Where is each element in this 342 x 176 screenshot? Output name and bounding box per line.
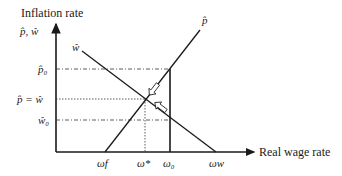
x-tick-ww: ωw xyxy=(209,158,224,169)
x-tick-wf: ωf xyxy=(97,158,108,169)
x-tick-w0: ω₀ xyxy=(163,158,175,169)
adjustment-arrow-upper xyxy=(146,81,162,98)
y-tick-p0: p̂₀ xyxy=(38,64,47,75)
x-axis-title: Real wage rate xyxy=(259,146,330,158)
w-hat-label: ŵ xyxy=(72,42,79,53)
x-tick-wstar: ω* xyxy=(137,158,150,169)
adjustment-arrow-lower xyxy=(152,99,169,115)
y-axis-symbol: p̂, ŵ xyxy=(20,26,38,37)
y-tick-w0: ŵ₀ xyxy=(38,115,49,126)
y-axis-title: Inflation rate xyxy=(21,7,83,19)
p-hat-label: p̂ xyxy=(202,15,208,26)
y-tick-equal: p̂ = ŵ xyxy=(17,94,43,105)
w-hat-curve xyxy=(82,51,216,152)
